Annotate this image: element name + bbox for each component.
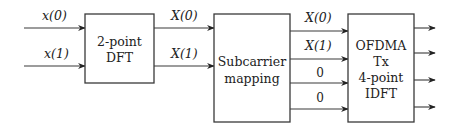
ofdma-idft-block: OFDMA Tx 4-point IDFT <box>348 14 414 122</box>
mapping-output-0: X(0) <box>290 10 348 31</box>
dft-label-line2: DFT <box>106 50 134 65</box>
input-x0: x(0) <box>24 8 85 28</box>
input-label: x(1) <box>44 46 69 61</box>
mapping-output-label: X(0) <box>304 10 332 25</box>
input-x1: x(1) <box>24 46 85 66</box>
block-diagram: x(0) x(1) 2-point DFT X(0) X(1) Subcarri… <box>0 0 459 129</box>
mapping-output-label: 0 <box>316 66 324 80</box>
mapping-output-3: 0 <box>290 91 348 109</box>
idft-label-line1: OFDMA <box>356 38 408 53</box>
dft-output-label: X(1) <box>170 46 198 61</box>
dft-output-X0: X(0) <box>154 8 214 28</box>
dft-output-X1: X(1) <box>154 46 214 66</box>
idft-label-line2: Tx <box>373 54 388 69</box>
idft-label-line4: IDFT <box>365 86 398 101</box>
subcarrier-mapping-block: Subcarrier mapping <box>214 14 290 122</box>
mapping-output-2: 0 <box>290 66 348 83</box>
dft-block: 2-point DFT <box>85 14 154 83</box>
mapping-output-label: 0 <box>316 91 324 105</box>
input-label: x(0) <box>42 8 67 23</box>
idft-label-line3: 4-point <box>359 70 404 85</box>
mapping-output-1: X(1) <box>290 38 348 59</box>
dft-label-line1: 2-point <box>97 34 142 49</box>
mapping-label-line2: mapping <box>224 71 279 86</box>
mapping-output-label: X(1) <box>304 38 332 53</box>
dft-output-label: X(0) <box>170 8 198 23</box>
mapping-label-line1: Subcarrier <box>218 54 286 69</box>
